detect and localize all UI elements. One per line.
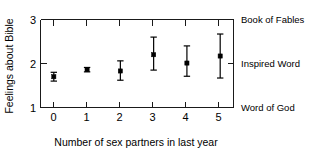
data-point-group xyxy=(217,34,223,78)
x-tick-label-0: 0 xyxy=(50,111,56,123)
x-tick-label-2: 2 xyxy=(116,111,122,123)
y-tick-label-3: 3 xyxy=(30,14,36,26)
data-point-marker xyxy=(52,75,56,79)
data-series xyxy=(51,34,224,81)
category-label-book-of-fables: Book of Fables xyxy=(241,14,305,25)
category-label-word-of-god: Word of God xyxy=(241,102,295,113)
x-tick-label-3: 3 xyxy=(149,111,155,123)
data-point-marker xyxy=(152,53,156,57)
x-axis-title: Number of sex partners in last year xyxy=(54,136,218,148)
chart-figure: Feelings about Bible Number of sex partn… xyxy=(0,0,315,153)
x-tick-label-1: 1 xyxy=(83,111,89,123)
x-tick-label-5: 5 xyxy=(215,111,221,123)
data-point-group xyxy=(117,61,123,80)
data-point-group xyxy=(84,67,90,71)
data-point-marker xyxy=(118,69,122,73)
data-point-group xyxy=(150,37,156,70)
data-point-marker xyxy=(185,61,189,65)
data-point-marker xyxy=(218,54,222,58)
data-point-group xyxy=(184,46,190,76)
data-point-marker xyxy=(85,68,89,72)
y-tick-label-2: 2 xyxy=(30,58,36,70)
y-axis-title: Feelings about Bible xyxy=(3,18,15,113)
plot-frame xyxy=(41,20,234,108)
errorbar-scatter-plot: Feelings about Bible Number of sex partn… xyxy=(0,0,315,153)
category-label-inspired-word: Inspired Word xyxy=(241,58,300,69)
data-point-group xyxy=(51,72,57,81)
y-axis-ticks xyxy=(41,20,234,108)
y-tick-label-1: 1 xyxy=(30,102,36,114)
x-axis-ticks xyxy=(54,20,219,108)
x-tick-label-4: 4 xyxy=(182,111,188,123)
